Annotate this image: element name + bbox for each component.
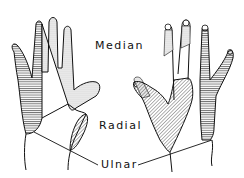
- hand-innervation-diagram: [0, 0, 244, 178]
- label-median: Median: [95, 39, 144, 52]
- dorsal-median-tip-middle: [181, 26, 190, 48]
- palmar-ulnar-region: [12, 21, 42, 134]
- dorsal-radial-region: [133, 78, 192, 152]
- dorsal-median-tip-index: [164, 30, 173, 56]
- fingernail-index: [165, 24, 171, 30]
- label-radial: Radial: [99, 119, 142, 132]
- palmar-hand: [12, 18, 100, 171]
- fingernail-middle: [183, 20, 189, 26]
- label-ulnar: Ulnar: [101, 158, 138, 171]
- dorsal-ulnar-region: [200, 30, 233, 140]
- ulnar-leader-right: [138, 140, 212, 165]
- dorsal-wrist-outline: [170, 140, 213, 172]
- ulnar-leader-left: [34, 132, 98, 165]
- palmar-radial-region: [70, 114, 88, 150]
- palmar-median-region: [42, 18, 100, 111]
